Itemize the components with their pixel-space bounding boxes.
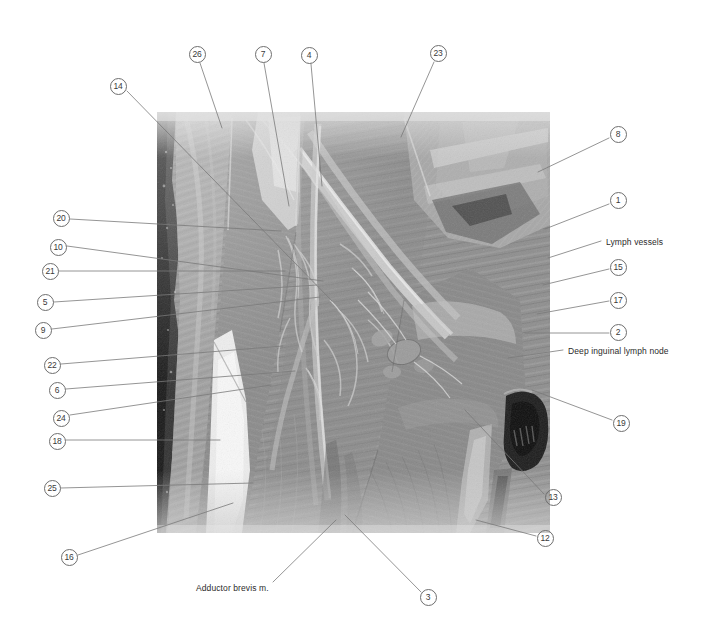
callout-marker-24[interactable]: 24 [53,410,70,427]
callout-marker-12[interactable]: 12 [537,530,554,547]
callout-marker-10[interactable]: 10 [50,239,67,256]
dissection-photograph [157,112,550,534]
callout-marker-3[interactable]: 3 [420,589,437,606]
callout-marker-17[interactable]: 17 [610,292,627,309]
callout-marker-1[interactable]: 1 [610,192,627,209]
leader-line-1 [545,204,609,229]
label-lymph-vessels: Lymph vessels [606,237,663,247]
figure-canvas [0,0,709,640]
callout-marker-26[interactable]: 26 [189,46,206,63]
callout-marker-19[interactable]: 19 [613,415,630,432]
callout-marker-13[interactable]: 13 [545,489,562,506]
callout-marker-8[interactable]: 8 [610,126,627,143]
callout-marker-18[interactable]: 18 [49,433,66,450]
callout-marker-14[interactable]: 14 [110,78,127,95]
callout-marker-16[interactable]: 16 [61,549,78,566]
callout-marker-20[interactable]: 20 [53,210,70,227]
callout-marker-2[interactable]: 2 [610,324,627,341]
figure-plate: 2674231481201015215179222624191825131216… [0,0,709,640]
callout-marker-25[interactable]: 25 [44,480,61,497]
label-adductor-brevis: Adductor brevis m. [196,583,269,593]
callout-marker-5[interactable]: 5 [37,294,54,311]
callout-marker-4[interactable]: 4 [301,47,318,64]
callout-marker-9[interactable]: 9 [35,322,52,339]
callout-marker-22[interactable]: 22 [44,357,61,374]
label-deep-inguinal-lymph-node: Deep inguinal lymph node [568,346,669,356]
callout-marker-6[interactable]: 6 [49,382,66,399]
callout-marker-7[interactable]: 7 [255,46,272,63]
callout-marker-15[interactable]: 15 [610,259,627,276]
leader-line-lymph-vessels [548,241,601,258]
leader-line-15 [543,269,609,285]
callout-marker-21[interactable]: 21 [42,263,59,280]
callout-marker-23[interactable]: 23 [430,45,447,62]
